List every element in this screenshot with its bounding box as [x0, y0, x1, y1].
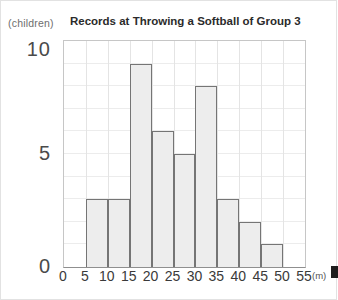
histogram-bar-45-50m — [261, 244, 283, 267]
gridline-horizontal — [64, 108, 305, 109]
y-tick-label-10: 10 — [9, 38, 51, 61]
gridline-horizontal — [64, 85, 305, 86]
plot-area — [63, 40, 306, 268]
gridline-vertical — [283, 41, 284, 267]
y-tick-label-5: 5 — [9, 142, 51, 165]
y-tick-label-0: 0 — [9, 255, 51, 278]
histogram-bar-25-30m — [174, 154, 196, 267]
cropped-edge-mark — [331, 266, 338, 278]
histogram-bar-35-40m — [217, 199, 239, 267]
x-axis-unit-label: (m) — [312, 270, 326, 281]
chart-title: Records at Throwing a Softball of Group … — [70, 15, 301, 27]
histogram-bar-15-20m — [130, 64, 152, 267]
histogram-bar-30-35m — [195, 86, 217, 267]
histogram-bar-20-25m — [152, 131, 174, 267]
gridline-horizontal — [64, 63, 305, 64]
y-axis-unit-label: (children) — [8, 17, 54, 29]
gridline-vertical — [261, 41, 262, 267]
histogram-bar-5-10m — [86, 199, 108, 267]
histogram-bar-10-15m — [108, 199, 130, 267]
gridline-horizontal — [64, 130, 305, 131]
histogram-bar-40-45m — [239, 222, 261, 267]
